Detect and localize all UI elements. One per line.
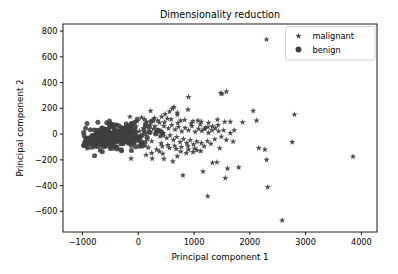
data-point-benign xyxy=(94,131,99,136)
data-point-malignant xyxy=(236,164,242,170)
data-point-malignant xyxy=(174,134,180,140)
data-point-benign xyxy=(87,138,92,143)
data-point-malignant xyxy=(279,217,285,223)
y-tick-label: −400 xyxy=(35,181,58,191)
data-point-malignant xyxy=(250,108,256,114)
data-point-malignant xyxy=(230,138,236,144)
data-point-benign xyxy=(128,137,133,142)
x-axis-title: Principal component 1 xyxy=(171,252,268,262)
data-point-malignant xyxy=(127,113,133,119)
data-point-malignant xyxy=(161,156,167,162)
data-point-malignant xyxy=(218,133,224,139)
data-point-malignant xyxy=(224,165,230,171)
x-tick-label: 4000 xyxy=(351,237,372,247)
data-point-benign xyxy=(92,153,97,158)
data-point-malignant xyxy=(209,159,215,165)
data-point-malignant xyxy=(231,127,237,133)
y-tick-label: −600 xyxy=(35,206,58,216)
data-point-malignant xyxy=(263,36,269,42)
data-points-benign xyxy=(81,117,165,158)
y-axis-title: Principal component 2 xyxy=(15,79,25,176)
y-tick-label: 600 xyxy=(42,52,58,62)
x-tick-label: 3000 xyxy=(295,237,316,247)
data-point-benign xyxy=(110,124,115,129)
data-point-malignant xyxy=(149,155,155,161)
y-tick-label: −200 xyxy=(35,155,58,165)
data-point-malignant xyxy=(350,153,356,159)
data-point-malignant xyxy=(178,144,184,150)
legend-label-malignant: malignant xyxy=(313,31,355,41)
legend-marker-circle xyxy=(296,47,302,53)
legend-label-benign: benign xyxy=(313,45,341,55)
data-point-malignant xyxy=(291,111,297,117)
data-point-malignant xyxy=(169,122,175,128)
data-point-benign xyxy=(83,126,88,131)
y-tick-label: 800 xyxy=(42,26,58,36)
data-point-malignant xyxy=(262,146,268,152)
data-point-malignant xyxy=(187,137,193,143)
data-point-malignant xyxy=(170,158,176,164)
data-point-malignant xyxy=(147,108,153,114)
data-point-malignant xyxy=(143,152,149,158)
data-point-malignant xyxy=(227,130,233,136)
data-point-malignant xyxy=(205,193,211,199)
data-point-malignant xyxy=(185,94,191,100)
data-point-malignant xyxy=(223,137,229,143)
data-point-benign xyxy=(108,146,113,151)
data-point-malignant xyxy=(256,145,262,151)
data-point-malignant xyxy=(217,145,223,151)
data-point-malignant xyxy=(180,136,186,142)
y-tick-label: 0 xyxy=(52,129,57,139)
data-point-benign xyxy=(129,148,134,153)
data-point-malignant xyxy=(205,119,211,125)
data-point-malignant xyxy=(265,184,271,190)
data-point-malignant xyxy=(214,159,220,165)
x-tick-label: 1000 xyxy=(184,237,205,247)
data-point-malignant xyxy=(222,175,228,181)
data-point-malignant xyxy=(214,116,220,122)
data-point-malignant xyxy=(174,153,180,159)
data-point-benign xyxy=(123,137,128,142)
data-point-malignant xyxy=(222,119,228,125)
data-point-malignant xyxy=(158,140,164,146)
data-point-benign xyxy=(101,134,106,139)
data-point-malignant xyxy=(253,117,259,123)
y-tick-label: 200 xyxy=(42,103,58,113)
data-point-malignant xyxy=(198,148,204,154)
data-point-benign xyxy=(119,147,124,152)
data-point-malignant xyxy=(149,150,155,156)
legend: malignantbenign xyxy=(286,27,376,61)
x-tick-label: −1000 xyxy=(69,237,97,247)
x-tick-label: 0 xyxy=(136,237,141,247)
scatter-chart: −100001000200030004000−600−400−200020040… xyxy=(0,0,398,274)
data-point-benign xyxy=(95,120,100,125)
data-point-benign xyxy=(123,132,128,137)
data-point-benign xyxy=(85,121,90,126)
data-point-benign xyxy=(119,125,124,130)
data-point-malignant xyxy=(239,119,245,125)
data-point-malignant xyxy=(263,157,269,163)
data-point-malignant xyxy=(185,106,191,112)
data-point-benign xyxy=(107,119,112,124)
y-tick-label: 400 xyxy=(42,78,58,88)
x-tick-label: 2000 xyxy=(239,237,260,247)
data-point-malignant xyxy=(200,168,206,174)
data-point-malignant xyxy=(181,117,187,123)
data-point-benign xyxy=(146,130,151,135)
data-point-malignant xyxy=(220,127,226,133)
data-point-malignant xyxy=(212,136,218,142)
data-point-benign xyxy=(82,139,87,144)
data-point-malignant xyxy=(128,155,134,161)
data-point-malignant xyxy=(180,172,186,178)
data-point-benign xyxy=(95,144,100,149)
chart-title: Dimensionality reduction xyxy=(160,9,280,20)
data-point-benign xyxy=(114,145,119,150)
data-point-benign xyxy=(108,130,113,135)
data-point-benign xyxy=(100,149,105,154)
figure-canvas: −100001000200030004000−600−400−200020040… xyxy=(0,0,398,274)
data-point-malignant xyxy=(227,119,233,125)
data-point-malignant xyxy=(289,139,295,145)
